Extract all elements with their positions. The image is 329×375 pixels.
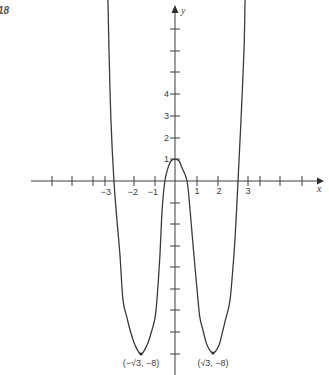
x-axis: x −3 −2 −1 1 2 3 [31, 176, 324, 197]
x-axis-label: x [316, 183, 322, 194]
minimum-point-marker [211, 351, 214, 354]
annotation-right-minimum: (√3, −8) [197, 358, 228, 368]
y-tick-label: 4 [164, 89, 169, 99]
x-tick-label: 1 [194, 186, 199, 196]
minimum-point-marker [139, 352, 142, 355]
function-graph: 18 x −3 −2 −1 1 2 3 y 1 2 3 4 (−√3, −8) … [0, 0, 329, 375]
x-tick-label: −3 [101, 187, 111, 197]
y-axis-label: y [180, 5, 186, 16]
x-tick-label: 2 [216, 186, 221, 196]
x-tick-label: 3 [245, 186, 250, 196]
y-axis: y 1 2 3 4 [164, 5, 186, 375]
y-axis-arrow-icon [172, 5, 179, 13]
y-tick-label: 2 [164, 133, 169, 143]
y-tick-label: 1 [164, 154, 169, 164]
x-tick-label: −2 [128, 187, 138, 197]
y-tick-label: 3 [164, 111, 169, 121]
figure-number: 18 [0, 5, 10, 16]
x-tick-label: −1 [148, 187, 158, 197]
annotation-left-minimum: (−√3, −8) [123, 358, 159, 368]
function-curve [107, 0, 246, 354]
